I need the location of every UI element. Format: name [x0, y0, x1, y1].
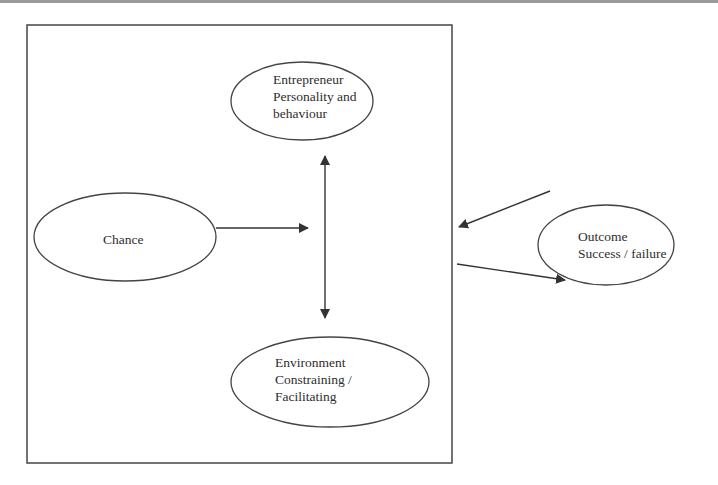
chance-label-line-1: Chance: [103, 231, 143, 248]
environment-label-line-1: Environment: [275, 354, 352, 371]
outcome-label: Outcome Success / failure: [578, 228, 666, 262]
entrepreneur-label: Entrepreneur Personality and behaviour: [273, 71, 357, 122]
entrepreneur-label-line-3: behaviour: [273, 105, 357, 122]
environment-label-line-2: Constraining /: [275, 371, 352, 388]
feedback-arrow-in: [459, 191, 550, 227]
environment-label-line-3: Facilitating: [275, 388, 352, 405]
system-box: [27, 25, 452, 463]
outcome-label-line-1: Outcome: [578, 228, 666, 245]
environment-label: Environment Constraining / Facilitating: [275, 354, 352, 405]
entrepreneur-label-line-2: Personality and: [273, 88, 357, 105]
chance-label: Chance: [103, 231, 143, 248]
entrepreneur-label-line-1: Entrepreneur: [273, 71, 357, 88]
outcome-label-line-2: Success / failure: [578, 245, 666, 262]
